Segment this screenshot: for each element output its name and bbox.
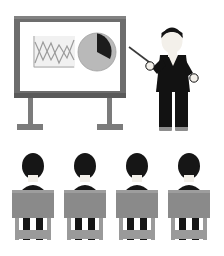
attendee-2-desk[interactable] [64,190,106,218]
attendee-2-chair-left-leg [67,216,71,240]
attendee-1-desk-top [12,190,54,193]
attendee-3-desk[interactable] [116,190,158,218]
presenter-left-hand [146,62,154,70]
attendee-3-desk-top [116,190,158,193]
whiteboard-frame-shadow [14,93,126,98]
attendee-1-neck [28,175,38,182]
attendee-4-desk[interactable] [168,190,210,218]
attendee-4-desk-top [168,190,210,193]
presentation-illustration: Business presentation with whiteboard an… [0,0,224,256]
attendee-3-chair-left-leg [119,216,123,240]
attendee-1-desk[interactable] [12,190,54,218]
attendee-2-chair-seat [70,230,100,239]
attendee-2-neck [80,175,90,182]
attendee-1-chair-left-leg [15,216,19,240]
presenter-left-leg [159,88,172,127]
whiteboard-frame-highlight [14,16,126,19]
attendee-3-chair-seat [122,230,152,239]
whiteboard-left-leg [28,96,33,125]
attendee-4-neck [184,175,194,182]
attendee-2-desk-top [64,190,106,193]
attendee-4-chair-seat [174,230,204,239]
attendee-1-chair-seat [18,230,48,239]
attendee-3-chair-right-leg [151,216,155,240]
attendee-4-chair-left-leg [171,216,175,240]
pie-chart-slide[interactable] [78,33,116,71]
attendee-1-chair-right-leg [47,216,51,240]
whiteboard-right-leg [107,96,112,125]
presenter-right-leg [175,88,188,127]
attendee-2-chair-right-leg [99,216,103,240]
attendee-4-chair-right-leg [203,216,207,240]
illustration-canvas [0,0,224,256]
attendee-3-neck [132,175,142,182]
line-chart-slide[interactable] [33,36,75,68]
presenter-right-hand [190,74,198,82]
